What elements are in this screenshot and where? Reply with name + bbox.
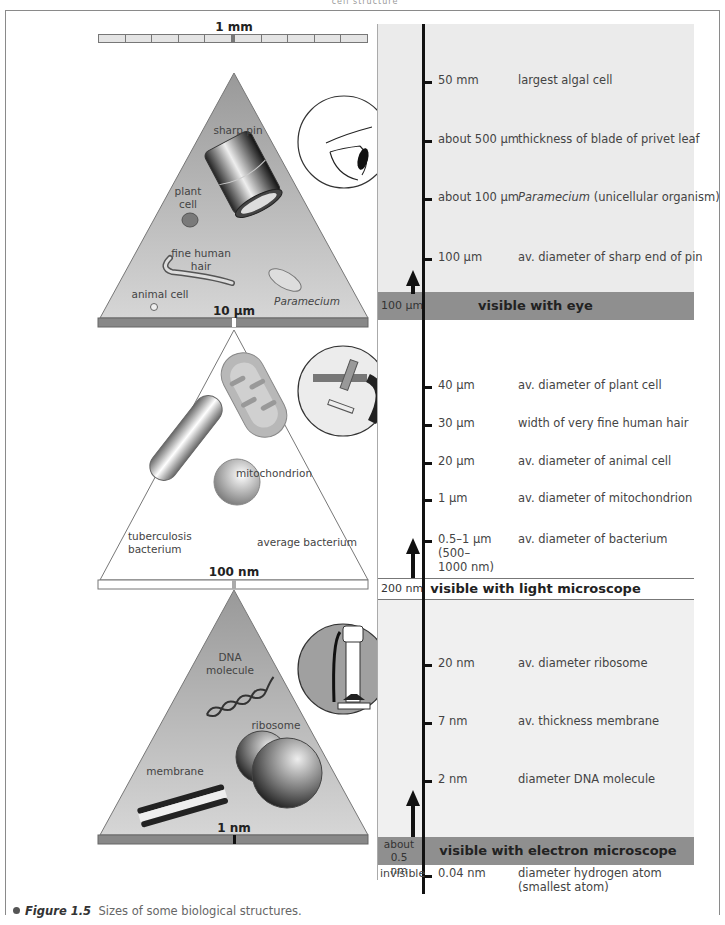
entry-desc-line: diameter hydrogen atom [518,866,662,880]
entry-desc: diameter DNA molecule [518,772,655,786]
entry-value-line: 1000 nm) [438,560,494,574]
light-microscope-icon [298,346,377,436]
eye-icon [298,96,377,188]
entry-value: 50 mm [438,73,479,87]
invisible-label: invisible [380,867,425,880]
entry-desc: width of very fine human hair [518,416,688,430]
tick [425,540,432,543]
bullet-icon [13,907,20,914]
tick [425,780,432,783]
tick [425,462,432,465]
tick [425,722,432,725]
entry-desc-rest: (unicellular organism) [590,190,720,204]
label-animal-cell: animal cell [125,288,195,301]
band-limit-line: about [384,838,414,850]
entry-value: 1 µm [438,491,468,505]
ruler-1mm [98,34,368,43]
scale-label-10um: 10 µm [184,304,284,318]
scale-axis [422,24,425,894]
entry-desc-line: (smallest atom) [518,880,609,894]
entry-value: about 100 µm [438,190,519,204]
entry-desc: av. diameter of animal cell [518,454,671,468]
entry-desc: av. diameter ribosome [518,656,648,670]
entry-value: 7 nm [438,714,467,728]
entry-desc: av. thickness membrane [518,714,659,728]
label-fine-human-hair: fine human hair [166,247,236,273]
entry-value: 0.04 nm [438,866,486,880]
tick [425,499,432,502]
entry-value: 30 µm [438,416,475,430]
label-average-bacterium: average bacterium [252,536,362,549]
entry-value: 100 µm [438,250,482,264]
entry-desc: av. diameter of bacterium [518,532,667,546]
entry-value-line: 0.5–1 µm [438,532,492,546]
entry-value: 20 nm [438,656,475,670]
tick [425,258,432,261]
entry-value: 0.5–1 µm (500– 1000 nm) [438,532,494,574]
caption-text: Sizes of some biological structures. [98,904,301,918]
entry-desc: av. diameter of sharp end of pin [518,250,703,264]
entry-desc-italic: Paramecium [518,190,590,204]
entry-value: 2 nm [438,772,467,786]
label-dna-molecule: DNA molecule [204,651,256,677]
tick [425,386,432,389]
entry-desc: thickness of blade of privet leaf [518,132,700,146]
arrow-shaft [411,804,415,837]
arrow-shaft [411,284,415,294]
band-label: visible with electron microscope [422,843,694,858]
label-sharp-pin: sharp pin [208,124,268,137]
panel-divider [377,24,378,880]
tick [425,424,432,427]
entry-value: 20 µm [438,454,475,468]
entry-desc: Paramecium (unicellular organism) [518,190,720,204]
label-ribosome: ribosome [246,719,306,732]
entry-value: 40 µm [438,378,475,392]
scale-label-1mm: 1 mm [184,20,284,34]
scale-label-100nm: 100 nm [184,565,284,579]
tick [425,198,432,201]
label-tuberculosis-bacterium: tuberculosis bacterium [128,530,194,556]
arrow-shaft [411,552,415,578]
entry-desc: av. diameter of mitochondrion [518,491,692,505]
label-plant-cell: plant cell [168,185,208,211]
tick [425,875,432,878]
scale-label-1nm: 1 nm [184,821,284,835]
label-mitochondrion: mitochondrion [234,467,314,480]
entry-desc: av. diameter of plant cell [518,378,662,392]
figure-number: Figure 1.5 [25,904,91,918]
label-membrane: membrane [140,765,210,778]
entry-value: about 500 µm [438,132,519,146]
figure-caption: Figure 1.5 Sizes of some biological stru… [13,904,302,918]
entry-desc: diameter hydrogen atom (smallest atom) [518,866,662,894]
tick [425,664,432,667]
entry-desc: largest algal cell [518,73,613,87]
tick [425,81,432,84]
entry-value-line: (500– [438,546,470,560]
tick [425,140,432,143]
